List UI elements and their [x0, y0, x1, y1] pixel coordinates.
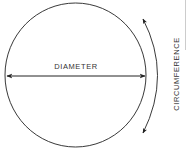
- circumference-arrow: [143, 19, 158, 133]
- circle-diagram: DIAMETER CIRCUMFERENCE: [0, 0, 188, 149]
- circle-outline: [5, 3, 146, 147]
- diameter-label: DIAMETER: [54, 62, 98, 71]
- circumference-label: CIRCUMFERENCE: [172, 37, 181, 111]
